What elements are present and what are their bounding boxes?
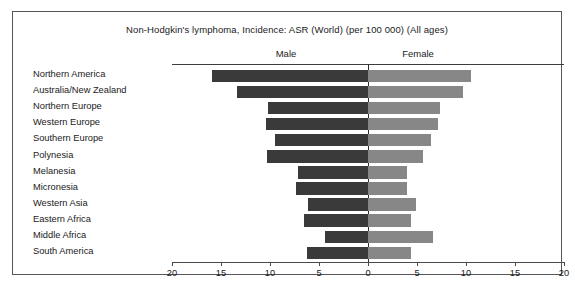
bar-female <box>368 214 411 227</box>
bar-female <box>368 134 431 147</box>
category-label: Australia/New Zealand <box>33 85 163 95</box>
series-header-female: Female <box>378 48 458 59</box>
x-axis-tick-label: 15 <box>495 268 535 278</box>
bar-female <box>368 150 423 163</box>
bar-male <box>266 118 368 131</box>
chart-frame: Non-Hodgkin's lymphoma, Incidence: ASR (… <box>12 11 562 275</box>
category-label: Western Europe <box>33 117 163 127</box>
x-axis-tick <box>270 262 271 266</box>
bar-male <box>267 150 368 163</box>
bar-male <box>268 102 368 115</box>
chart-row: Western Europe <box>13 116 575 132</box>
bar-female <box>368 198 416 211</box>
bar-female <box>368 247 411 260</box>
chart-row: Southern Europe <box>13 132 575 148</box>
x-axis-tick <box>417 262 418 266</box>
bar-female <box>368 102 440 115</box>
x-axis-tick-label: 10 <box>446 268 486 278</box>
category-label: Micronesia <box>33 182 163 192</box>
chart-row: Middle Africa <box>13 229 575 245</box>
x-axis-tick <box>221 262 222 266</box>
category-label: Western Asia <box>33 198 163 208</box>
x-axis-tick <box>466 262 467 266</box>
category-label: Middle Africa <box>33 230 163 240</box>
x-axis-tick-label: 0 <box>348 268 388 278</box>
chart-row: Western Asia <box>13 197 575 213</box>
bar-male <box>237 86 368 99</box>
category-label: Northern America <box>33 69 163 79</box>
x-axis-tick-label: 15 <box>201 268 241 278</box>
bar-female <box>368 86 463 99</box>
chart-row: Northern America <box>13 68 575 84</box>
bar-male <box>307 247 368 260</box>
x-axis-tick <box>564 262 565 266</box>
x-axis: 201510505101520 <box>13 262 575 289</box>
bar-male <box>325 231 368 244</box>
chart-title: Non-Hodgkin's lymphoma, Incidence: ASR (… <box>13 24 561 35</box>
series-header-male: Male <box>246 48 326 59</box>
plot-area: Northern AmericaAustralia/New ZealandNor… <box>13 68 575 262</box>
chart-row: Australia/New Zealand <box>13 84 575 100</box>
chart-row: Northern Europe <box>13 100 575 116</box>
bar-male <box>298 166 368 179</box>
chart-row: South America <box>13 245 575 261</box>
x-axis-tick <box>319 262 320 266</box>
category-label: Northern Europe <box>33 101 163 111</box>
category-label: Eastern Africa <box>33 214 163 224</box>
bar-male <box>275 134 368 147</box>
category-label: Southern Europe <box>33 133 163 143</box>
x-axis-tick <box>368 262 369 266</box>
category-label: Polynesia <box>33 150 163 160</box>
bar-male <box>308 198 368 211</box>
x-axis-tick-label: 5 <box>397 268 437 278</box>
bar-male <box>304 214 368 227</box>
x-axis-tick-label: 5 <box>299 268 339 278</box>
chart-row: Polynesia <box>13 149 575 165</box>
bar-female <box>368 182 407 195</box>
category-label: South America <box>33 246 163 256</box>
chart-row: Eastern Africa <box>13 213 575 229</box>
bar-female <box>368 166 407 179</box>
chart-row: Micronesia <box>13 181 575 197</box>
bar-male <box>296 182 368 195</box>
x-axis-tick <box>172 262 173 266</box>
bar-female <box>368 118 438 131</box>
x-axis-tick-label: 20 <box>544 268 575 278</box>
category-label: Melanesia <box>33 166 163 176</box>
chart-row: Melanesia <box>13 165 575 181</box>
bar-female <box>368 70 471 83</box>
bar-female <box>368 231 433 244</box>
bar-male <box>212 70 368 83</box>
x-axis-tick-label: 10 <box>250 268 290 278</box>
x-axis-tick-label: 20 <box>152 268 192 278</box>
x-axis-tick <box>515 262 516 266</box>
